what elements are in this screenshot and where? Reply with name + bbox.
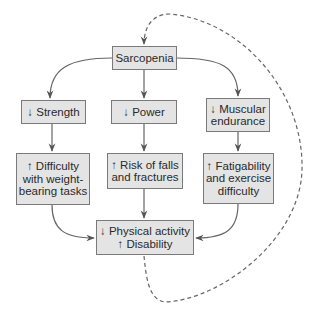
node-power: ↓ Power [111,100,177,124]
node-physical-activity-disability: ↓ Physical activity ↑ Disability [96,220,194,255]
arrow-difficulty-outcome [52,205,94,238]
node-sarcopenia: Sarcopenia [112,46,177,70]
arrow-sarcopenia-strength [50,58,112,98]
node-difficulty-weight-bearing: ↑ Difficulty with weight- bearing tasks [16,153,90,205]
node-strength: ↓ Strength [21,100,86,124]
node-risk-falls: ↑ Risk of falls and fractures [107,153,183,189]
node-muscular-endurance: ↓ Muscular endurance [206,98,270,132]
node-fatigability: ↑ Fatigability and exercise difficulty [203,153,274,204]
arrow-fatigability-outcome [196,204,238,238]
arrow-sarcopenia-endurance [176,58,238,96]
